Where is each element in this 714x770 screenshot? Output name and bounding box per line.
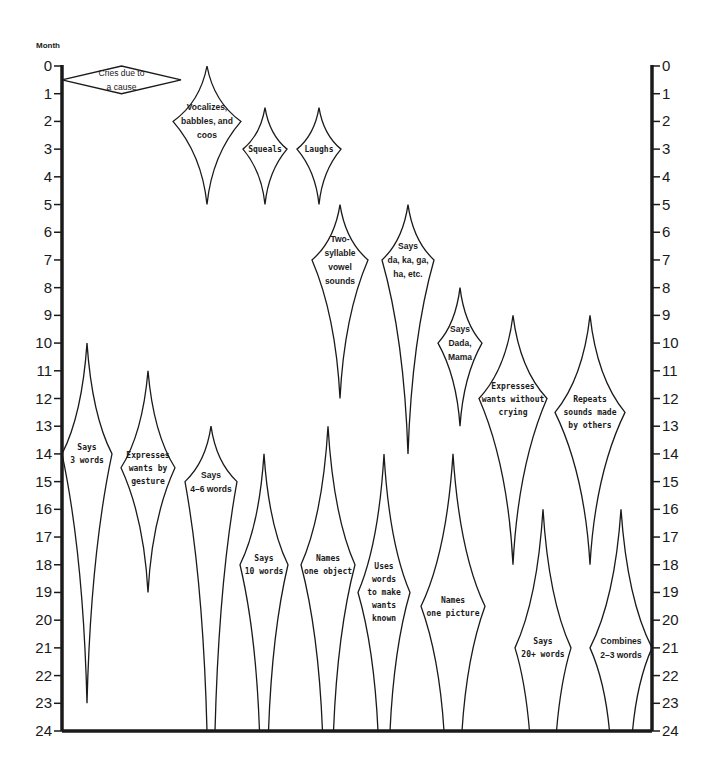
milestone-label: Names xyxy=(316,554,340,563)
left-tick-label: 2 xyxy=(44,112,52,129)
milestone-shape: Laughs xyxy=(297,108,341,205)
milestone-label: da, ka, ga, xyxy=(387,255,428,265)
right-tick-label: 17 xyxy=(662,528,679,545)
right-tick-label: 14 xyxy=(662,445,679,462)
right-tick-label: 8 xyxy=(662,279,670,296)
right-tick-label: 15 xyxy=(662,473,679,490)
milestone-shape: Namesone object xyxy=(301,426,355,731)
milestone-label: Says xyxy=(533,637,552,646)
right-tick-label: 3 xyxy=(662,140,670,157)
milestone-label: Says xyxy=(201,470,221,480)
milestone-label: sounds xyxy=(325,276,355,286)
right-tick-label: 0 xyxy=(662,57,670,74)
right-tick-label: 19 xyxy=(662,583,679,600)
milestone-label: Expresses xyxy=(126,451,170,460)
milestone-shape: SaysDada,Mama xyxy=(438,288,482,427)
left-tick-label: 14 xyxy=(35,445,52,462)
left-tick-label: 22 xyxy=(35,667,52,684)
milestone-shape: Two-syllablevowelsounds xyxy=(312,205,368,399)
left-tick-label: 18 xyxy=(35,556,52,573)
milestone-outline xyxy=(421,454,485,731)
right-tick-label: 4 xyxy=(662,168,670,185)
milestone-label: 4–6 words xyxy=(190,484,232,494)
milestone-label: known xyxy=(372,614,396,623)
milestone-label: Dada, xyxy=(448,338,471,348)
right-tick-label: 2 xyxy=(662,112,670,129)
y-axis-title: Month xyxy=(36,41,60,50)
milestone-label: wants xyxy=(372,601,396,610)
milestone-shape: Repeatssounds madeby others xyxy=(555,315,625,564)
milestone-label: Expresses xyxy=(491,382,535,391)
milestone-label: Laughs xyxy=(305,145,334,154)
milestone-label: words xyxy=(372,575,396,584)
left-tick-label: 10 xyxy=(35,334,52,351)
right-tick-label: 5 xyxy=(662,196,670,213)
right-tick-label: 12 xyxy=(662,390,679,407)
milestone-label: Repeats xyxy=(573,395,607,404)
milestone-shape: Combines2–3 words xyxy=(590,509,652,731)
milestone-shape: Squeals xyxy=(243,108,287,205)
milestone-shape: Vocalizes,babbles, andcoos xyxy=(173,66,241,205)
right-tick-label: 24 xyxy=(662,722,679,739)
milestone-shape: Expresseswants bygesture xyxy=(121,371,175,593)
milestone-outline xyxy=(297,108,341,205)
left-tick-label: 16 xyxy=(35,500,52,517)
milestone-shape: Cries due toa cause xyxy=(62,66,181,94)
milestone-label: one object xyxy=(304,566,352,576)
milestone-outline xyxy=(590,509,652,731)
milestone-label: syllable xyxy=(324,248,355,258)
milestone-label: Cries due to xyxy=(99,68,145,78)
milestone-shape: Expresseswants withoutcrying xyxy=(479,315,547,564)
milestone-label: a cause xyxy=(107,82,137,92)
milestone-label: crying xyxy=(499,407,528,417)
left-tick-label: 20 xyxy=(35,611,52,628)
milestone-outline xyxy=(515,509,571,731)
right-tick-label: 6 xyxy=(662,223,670,240)
milestone-label: Vocalizes, xyxy=(187,102,227,112)
right-tick-label: 23 xyxy=(662,694,679,711)
right-tick-label: 18 xyxy=(662,556,679,573)
milestone-label: wants without xyxy=(482,394,545,404)
right-tick-label: 1 xyxy=(662,85,670,102)
milestone-label: by others xyxy=(568,421,612,430)
right-tick-label: 7 xyxy=(662,251,670,268)
milestone-label: Says xyxy=(398,241,418,251)
right-tick-label: 22 xyxy=(662,667,679,684)
right-tick-label: 16 xyxy=(662,500,679,517)
milestone-label: Names xyxy=(441,596,465,605)
left-tick-label: 24 xyxy=(35,722,52,739)
left-tick-label: 3 xyxy=(44,140,52,157)
milestone-label: coos xyxy=(197,130,217,140)
left-tick-label: 8 xyxy=(44,279,52,296)
milestone-label: 10 words xyxy=(245,567,284,576)
milestone-label: 20+ words xyxy=(521,650,565,659)
right-tick-label: 11 xyxy=(662,362,678,379)
milestone-label: Says xyxy=(450,324,470,334)
milestone-label: to make xyxy=(367,588,401,597)
left-tick-label: 23 xyxy=(35,694,52,711)
milestone-label: Squeals xyxy=(248,145,282,154)
right-tick-label: 10 xyxy=(662,334,679,351)
milestone-shape: Says3 words xyxy=(62,343,112,703)
milestone-shape: Says20+ words xyxy=(515,509,571,731)
milestone-label: sounds made xyxy=(564,408,617,417)
left-tick-label: 12 xyxy=(35,390,52,407)
milestone-label: Combines xyxy=(600,636,641,646)
milestone-outline xyxy=(479,315,547,564)
milestone-label: 3 words xyxy=(70,456,104,465)
milestone-outline xyxy=(243,108,287,205)
milestone-shape: Says4–6 words xyxy=(185,426,237,731)
milestone-label: Mama xyxy=(448,352,472,362)
left-tick-label: 17 xyxy=(35,528,52,545)
milestone-label: wants by xyxy=(129,464,168,473)
milestone-label: ha, etc. xyxy=(393,269,422,279)
left-tick-label: 0 xyxy=(44,57,52,74)
milestone-label: Uses xyxy=(374,562,393,571)
left-tick-label: 9 xyxy=(44,306,52,323)
left-tick-label: 5 xyxy=(44,196,52,213)
right-tick-label: 21 xyxy=(662,639,679,656)
milestone-label: Says xyxy=(77,443,96,452)
milestone-outline xyxy=(301,426,355,731)
milestone-label: Two- xyxy=(330,234,349,244)
milestone-shape: Useswordsto makewantsknown xyxy=(358,454,410,731)
